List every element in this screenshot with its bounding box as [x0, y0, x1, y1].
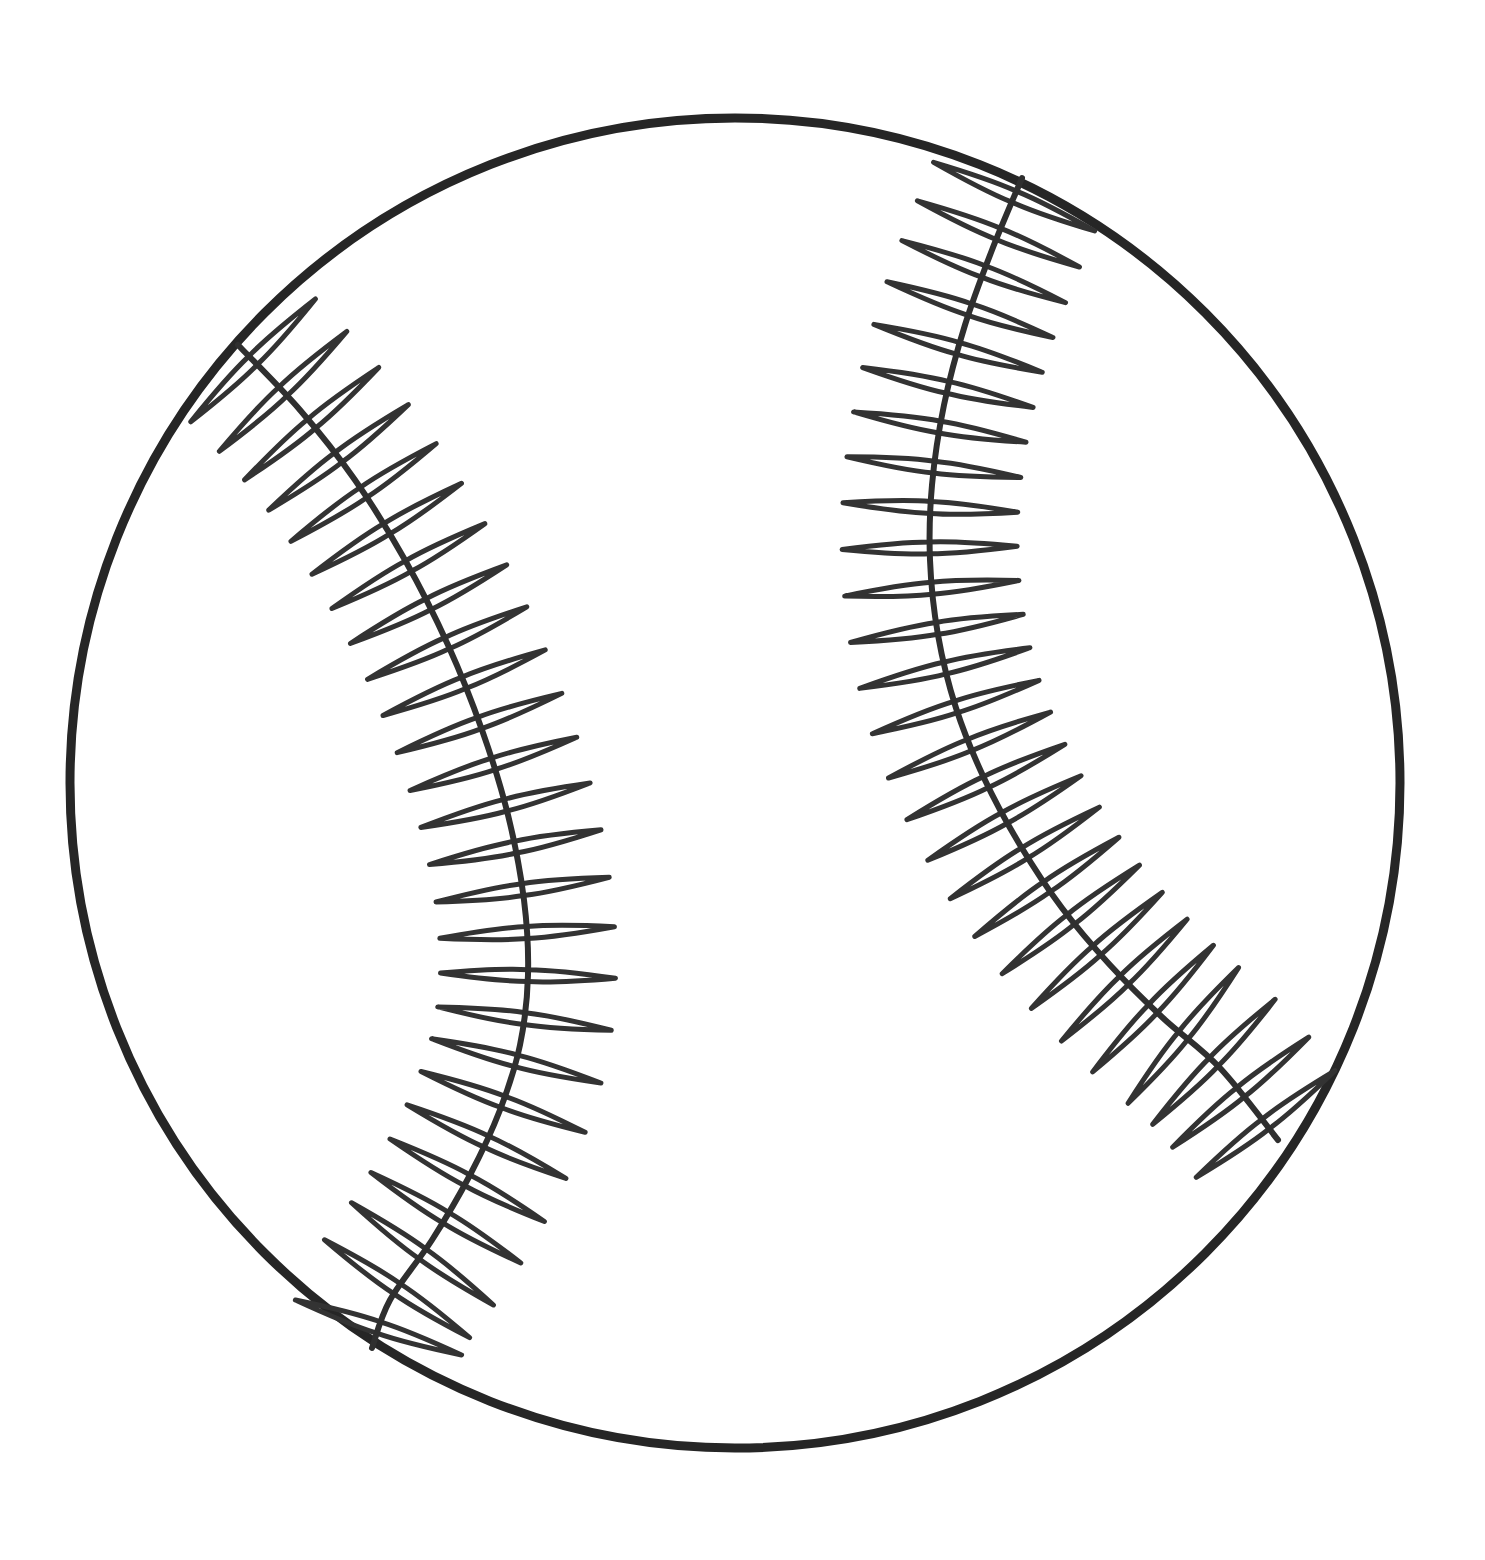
page-root: Baseball: [0, 0, 1485, 1560]
ball-outline: [70, 118, 1400, 1448]
baseball-illustration: [0, 0, 1485, 1560]
